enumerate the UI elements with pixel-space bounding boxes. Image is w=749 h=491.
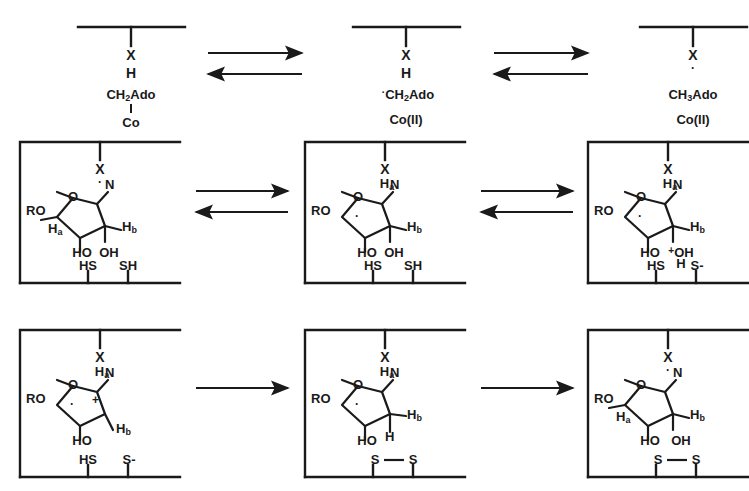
r3p2-ro-label: RO [311, 392, 331, 405]
r2p1-thiol-left-label: HS [79, 259, 97, 272]
r3p3-hydroxyl-right-label: OH [671, 434, 691, 447]
r3p1-hb-label: Hb [116, 422, 131, 437]
r1p3-metal-label: Co(II) [676, 113, 709, 126]
r1p1-cofactor-label: CH2Ado [106, 88, 155, 103]
r3p2-hydroxyl-left-label: HO [357, 434, 377, 447]
r3p2-disulfide-left-label: S [371, 453, 380, 466]
r1p1-hydrogen-label: H [126, 66, 136, 80]
r2p3-base-nitrogen-label: N [673, 178, 682, 191]
r2p2-thiol-right-label: SH [404, 259, 422, 272]
r2p1-enzyme-label: X [95, 162, 104, 176]
r3p1-hydroxyl-left-label: HO [72, 434, 92, 447]
r2p2-ro-label: RO [311, 204, 331, 217]
r2p1-ha-label: Ha [48, 222, 62, 237]
r1p2-hydrogen-label: H [401, 66, 411, 80]
ribose-r2p3 [625, 192, 689, 252]
r2p1-thiol-right-label: SH [119, 259, 137, 272]
r3p1-ring-oxygen-label: O [68, 378, 78, 391]
r1p1-enzyme-radical-label: X [126, 48, 135, 62]
r2p1-enzyme-radical-dot: · [98, 176, 102, 188]
r2p1-hb-label: Hb [122, 220, 137, 235]
r3p2-disulfide-right-label: S [409, 453, 418, 466]
row1-enzyme-bars [78, 27, 747, 46]
r2p3-ro-label: RO [594, 204, 614, 217]
r2p3-enzyme-label: X [663, 162, 672, 176]
r3p2-extra-hydrogen-label: H [385, 430, 394, 443]
r1p2-cofactor-label: ·CH2Ado [382, 88, 434, 103]
r1p2-enzyme-radical-label: X [401, 48, 410, 62]
r2p1-ro-label: RO [26, 204, 46, 217]
ribose-r2p2 [342, 192, 406, 252]
r2p2-hydroxyl-right-label: OH [384, 246, 404, 259]
r3p1-ro-label: RO [26, 392, 46, 405]
r2p2-ring-oxygen-label: O [353, 190, 363, 203]
r2p1-ring-oxygen-label: O [68, 190, 78, 203]
r3p2-base-nitrogen-label: N [390, 366, 399, 379]
r3p1-thiolate-right-label: S- [123, 453, 136, 466]
r3p2-enzyme-label: X [380, 350, 389, 364]
r3p1-ring-radical-dot: · [70, 398, 74, 410]
r2p2-hb-label: Hb [407, 220, 422, 235]
r2p3-oxonium-hydrogen-label: H [676, 257, 685, 270]
r2p2-ring-radical-dot: · [355, 210, 359, 222]
r3p3-disulfide-right-label: S [692, 453, 701, 466]
r1p1-metal-label: Co [122, 116, 139, 129]
r3p1-carbocation-label: + [92, 394, 99, 406]
r3p1-enzyme-label: X [95, 350, 104, 364]
r3p1-base-nitrogen-label: N [105, 366, 114, 379]
r2p1-base-nitrogen-label: N [105, 178, 114, 191]
r2p2-base-nitrogen-label: N [390, 178, 399, 191]
r2p3-ring-oxygen-label: O [636, 190, 646, 203]
r1p3-cofactor-label: CH3Ado [668, 88, 717, 103]
r3p3-enzyme-label: X [663, 350, 672, 364]
mechanism-figure: X H CH2Ado Co X H ·CH2Ado Co(II) X · CH3… [0, 0, 749, 491]
r3p3-base-nitrogen-label: N [673, 366, 682, 379]
r3p2-ring-radical-dot: · [355, 398, 359, 410]
r3p2-ring-oxygen-label: O [353, 378, 363, 391]
r3p3-enzyme-radical-dot: · [666, 364, 670, 376]
r2p3-thiol-left-label: HS [647, 259, 665, 272]
r2p3-thiolate-right-label: S- [691, 259, 704, 272]
r1p2-metal-label: Co(II) [389, 113, 422, 126]
r3p1-thiol-left-label: HS [79, 453, 97, 466]
r3p3-ring-oxygen-label: O [636, 378, 646, 391]
r3p3-ha-label: Ha [616, 410, 630, 425]
r1p3-enzyme-radical-label: X [688, 48, 697, 62]
r3p3-hb-label: Hb [690, 408, 705, 423]
reaction-arrows [196, 53, 588, 388]
r2p2-thiol-left-label: HS [364, 259, 382, 272]
r2p3-hb-label: Hb [690, 220, 705, 235]
ribose-skeletons [41, 192, 689, 440]
r3p3-ro-label: RO [594, 392, 614, 405]
r3p3-disulfide-left-label: S [654, 453, 663, 466]
r1p1-co-bond [130, 104, 132, 113]
r3p3-hydroxyl-left-label: HO [640, 434, 660, 447]
ribose-r3p2 [342, 380, 406, 440]
r1p3-radical-dot: · [691, 62, 695, 74]
r2p3-ring-radical-dot: · [638, 210, 642, 222]
r3p2-hb-label: Hb [407, 408, 422, 423]
r2p2-enzyme-label: X [380, 162, 389, 176]
r2p1-hydroxyl-right-label: OH [99, 246, 119, 259]
ribose-r3p1 [57, 380, 113, 440]
